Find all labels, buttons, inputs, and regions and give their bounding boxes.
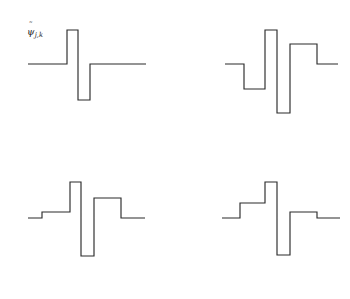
psi-with-tilde: ˜ψ (27, 27, 35, 37)
waveform-polyline (28, 182, 145, 256)
panel-top-left: ˜ψj,k (0, 0, 175, 149)
waveform-plot-top-left (0, 0, 175, 149)
wavelet-figure: ˜ψj,k μ=0 μ=-1 μ=1 (0, 0, 350, 299)
waveform-polyline (28, 30, 146, 100)
waveform-plot-bottom-right (175, 150, 350, 299)
waveform-polyline (222, 182, 340, 255)
psi-subscript: j,k (35, 31, 43, 39)
tilde-accent-icon: ˜ (29, 22, 33, 30)
panel-bottom-right: μ=1 (175, 150, 350, 299)
panel-label-psi: ˜ψj,k (27, 27, 43, 39)
waveform-plot-top-right (175, 0, 350, 149)
panel-top-right: μ=0 (175, 0, 350, 149)
waveform-plot-bottom-left (0, 150, 175, 299)
panel-bottom-left: μ=-1 (0, 150, 175, 299)
waveform-polyline (225, 30, 338, 113)
